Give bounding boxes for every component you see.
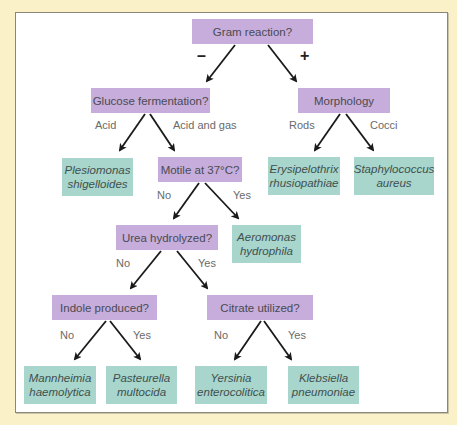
leaf-pasteurella-multocida: Pasteurella multocida	[106, 366, 177, 404]
species-label: pneumoniae	[292, 385, 355, 399]
edge-label-indole-no: No	[60, 329, 74, 341]
edge-label-motile-yes: Yes	[233, 189, 251, 201]
leaf-aeromonas-hydrophila: Aeromonas hydrophila	[232, 225, 301, 263]
edge-label-rods: Rods	[289, 119, 315, 131]
edge-label-citrate-yes: Yes	[288, 329, 306, 341]
edge-label-urea-yes: Yes	[198, 257, 216, 269]
node-motile-37c: Motile at 37°C?	[158, 157, 242, 182]
species-label: enterocolitica	[197, 385, 265, 399]
edge-label-gram-positive: +	[300, 47, 309, 65]
genus-label: Klebsiella	[299, 371, 348, 385]
node-citrate-utilized: Citrate utilized?	[207, 295, 313, 320]
leaf-plesiomonas-shigelloides: Plesiomonas shigelloides	[62, 158, 133, 196]
species-label: aureus	[376, 176, 411, 190]
genus-label: Mannheimia	[29, 371, 92, 385]
genus-label: Yersinia	[211, 371, 252, 385]
species-label: haemolytica	[29, 385, 90, 399]
genus-label: Pasteurella	[113, 371, 171, 385]
edge-label-indole-yes: Yes	[133, 329, 151, 341]
species-label: rhusiopathiae	[269, 176, 338, 190]
edge-label-gram-negative: –	[197, 47, 206, 65]
leaf-erysipelothrix-rhusiopathiae: Erysipelothrix rhusiopathiae	[268, 157, 340, 195]
genus-label: Erysipelothrix	[269, 162, 338, 176]
node-morphology: Morphology	[298, 88, 390, 113]
edge-label-motile-no: No	[157, 189, 171, 201]
node-indole-produced: Indole produced?	[52, 295, 157, 320]
diagram-panel	[15, 12, 448, 413]
edge-label-acid: Acid	[95, 119, 116, 131]
edge-label-citrate-no: No	[214, 329, 228, 341]
leaf-yersinia-enterocolitica: Yersinia enterocolitica	[195, 366, 267, 404]
edge-label-acid-and-gas: Acid and gas	[173, 119, 237, 131]
leaf-staphylococcus-aureus: Staphylococcus aureus	[354, 157, 434, 195]
genus-label: Plesiomonas	[65, 163, 131, 177]
species-label: shigelloides	[67, 177, 127, 191]
node-urea-hydrolyzed: Urea hydrolyzed?	[116, 225, 218, 250]
node-glucose-fermentation: Glucose fermentation?	[91, 88, 210, 113]
species-label: multocida	[117, 385, 166, 399]
edge-label-cocci: Cocci	[370, 119, 398, 131]
leaf-klebsiella-pneumoniae: Klebsiella pneumoniae	[288, 366, 359, 404]
edge-label-urea-no: No	[116, 257, 130, 269]
node-gram-reaction: Gram reaction?	[192, 19, 313, 44]
leaf-mannheimia-haemolytica: Mannheimia haemolytica	[24, 366, 96, 404]
genus-label: Aeromonas	[237, 230, 296, 244]
species-label: hydrophila	[240, 244, 293, 258]
genus-label: Staphylococcus	[354, 162, 435, 176]
